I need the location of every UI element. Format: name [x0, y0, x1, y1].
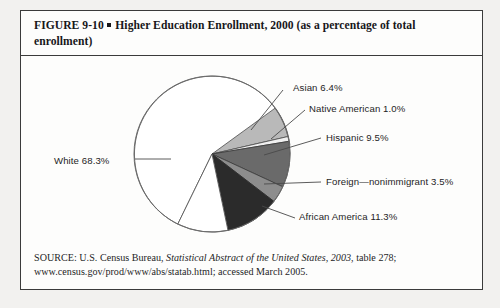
pie-label-native-american: Native American 1.0%	[309, 103, 405, 114]
pie-chart-svg	[21, 56, 482, 246]
source-prefix: SOURCE: U.S. Census Bureau,	[34, 252, 166, 263]
figure-frame: FIGURE 9-10Higher Education Enrollment, …	[20, 10, 483, 290]
figure-number: FIGURE 9-10	[34, 19, 104, 32]
pie-label-white: White 68.3%	[54, 155, 110, 166]
source-note: SOURCE: U.S. Census Bureau, Statistical …	[34, 251, 466, 278]
figure-caption: FIGURE 9-10Higher Education Enrollment, …	[21, 11, 482, 56]
square-bullet-icon	[107, 23, 112, 28]
pie-label-asian: Asian 6.4%	[293, 82, 343, 93]
leader-line-african-america	[262, 206, 295, 218]
pie-chart-area: White 68.3% Asian 6.4% Native American 1…	[21, 56, 482, 246]
pie-label-foreign: Foreign—nonimmigrant 3.5%	[326, 176, 453, 187]
source-italic-title: Statistical Abstract of the United State…	[166, 252, 351, 263]
pie-label-hispanic: Hispanic 9.5%	[326, 132, 389, 143]
figure-caption-text: FIGURE 9-10Higher Education Enrollment, …	[34, 18, 470, 49]
pie-label-african-america: African America 11.3%	[299, 211, 397, 222]
